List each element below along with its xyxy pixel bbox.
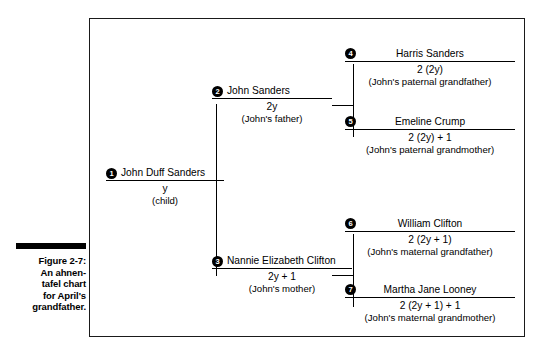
person-card-1[interactable]: 1 John Duff Sanders y (child) <box>106 167 224 207</box>
person-1-number-badge: 1 <box>106 168 117 179</box>
person-2-relation: (John's father) <box>212 113 332 125</box>
person-4-name-row: 4 Harris Sanders <box>345 48 515 62</box>
person-card-5[interactable]: 5 Emeline Crump 2 (2y) + 1 (John's pater… <box>345 116 515 156</box>
person-5-formula: 2 (2y) + 1 <box>345 130 515 144</box>
person-1-formula: y <box>106 181 224 195</box>
person-4-relation: (John's paternal grandfather) <box>345 76 515 88</box>
person-6-relation: (John's maternal grandfather) <box>345 246 515 258</box>
chart-frame: 1 John Duff Sanders y (child) 2 John San… <box>89 18 525 337</box>
person-6-number-badge: 6 <box>345 218 356 229</box>
caption-rule <box>16 243 86 249</box>
person-6-formula: 2 (2y + 1) <box>345 232 515 246</box>
person-2-number-badge: 2 <box>212 86 223 97</box>
person-3-name-row: 3 Nannie Elizabeth Clifton <box>212 255 352 269</box>
person-4-name: Harris Sanders <box>396 48 464 60</box>
person-card-3[interactable]: 3 Nannie Elizabeth Clifton 2y + 1 (John'… <box>212 255 352 295</box>
person-5-name-row: 5 Emeline Crump <box>345 116 515 130</box>
person-7-relation: (John's maternal grandmother) <box>345 312 515 324</box>
person-5-name: Emeline Crump <box>395 116 465 128</box>
caption-line-1: An ahnen- <box>6 267 86 279</box>
caption-line-4: grandfather. <box>6 301 86 313</box>
caption-line-3: for April's <box>6 290 86 302</box>
caption-line-2: tafel chart <box>6 278 86 290</box>
person-3-formula: 2y + 1 <box>212 269 352 283</box>
person-5-number-badge: 5 <box>345 116 356 127</box>
person-1-name-row: 1 John Duff Sanders <box>106 167 224 181</box>
person-4-number-badge: 4 <box>345 48 356 59</box>
person-3-number-badge: 3 <box>212 256 223 267</box>
person-4-formula: 2 (2y) <box>345 62 515 76</box>
figure-number: Figure 2-7: <box>6 255 86 267</box>
person-card-7[interactable]: 7 Martha Jane Looney 2 (2y + 1) + 1 (Joh… <box>345 284 515 324</box>
person-card-6[interactable]: 6 William Clifton 2 (2y + 1) (John's mat… <box>345 218 515 258</box>
connector-father-stub <box>332 105 354 106</box>
person-6-name-row: 6 William Clifton <box>345 218 515 232</box>
person-1-name: John Duff Sanders <box>121 167 205 179</box>
person-3-relation: (John's mother) <box>212 283 352 295</box>
person-7-name-row: 7 Martha Jane Looney <box>345 284 515 298</box>
person-5-relation: (John's paternal grandmother) <box>345 144 515 156</box>
person-3-name: Nannie Elizabeth Clifton <box>227 255 336 267</box>
person-card-4[interactable]: 4 Harris Sanders 2 (2y) (John's paternal… <box>345 48 515 88</box>
person-7-name: Martha Jane Looney <box>384 284 477 296</box>
person-2-name-row: 2 John Sanders <box>212 85 332 99</box>
person-2-formula: 2y <box>212 99 332 113</box>
person-2-name: John Sanders <box>227 85 290 97</box>
figure-caption: Figure 2-7: An ahnen- tafel chart for Ap… <box>6 243 86 313</box>
person-6-name: William Clifton <box>398 218 463 230</box>
person-7-number-badge: 7 <box>345 284 356 295</box>
person-1-relation: (child) <box>106 195 224 207</box>
caption-text: Figure 2-7: An ahnen- tafel chart for Ap… <box>6 255 86 313</box>
person-7-formula: 2 (2y + 1) + 1 <box>345 298 515 312</box>
person-card-2[interactable]: 2 John Sanders 2y (John's father) <box>212 85 332 125</box>
